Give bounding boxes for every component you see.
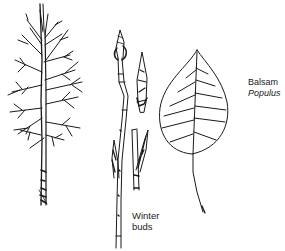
- scientific-name: Populus: [248, 88, 281, 99]
- winter-buds-label: Winter buds: [132, 210, 159, 232]
- common-name: Balsam: [248, 77, 278, 87]
- buds-label-line2: buds: [132, 221, 159, 232]
- buds-label-line1: Winter: [132, 210, 159, 221]
- species-label: Balsam Populus: [248, 77, 281, 99]
- tree-illustration: [8, 4, 82, 205]
- leaf-illustration: [160, 50, 228, 213]
